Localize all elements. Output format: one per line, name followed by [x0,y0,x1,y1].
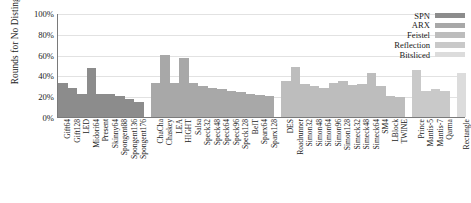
bar [338,81,348,117]
legend-swatch [435,52,465,58]
bar [208,88,218,117]
x-tick-label: Simeck48 [363,119,371,149]
bar [87,68,97,117]
x-tick-label: LED [83,119,91,134]
x-tick-label: Speck48 [214,119,222,145]
bar [236,92,246,117]
x-tick-label: HIGHT [185,119,193,143]
bar [58,83,68,117]
bar [246,94,256,117]
bar [179,58,189,117]
x-tick-label: Gift64 [64,119,72,139]
bar [96,94,106,117]
x-tick-label: Speck128 [242,119,250,149]
x-tick-label: Simon96 [335,119,343,146]
y-tick-label: 40% [38,72,54,80]
bar [68,88,78,117]
x-tick-label: Speck32 [204,119,212,145]
bar [115,96,125,117]
x-tick-label: Sparx64 [261,119,269,144]
legend-swatch [435,13,465,19]
bar [281,81,291,117]
bar [348,85,358,117]
x-tick-label: Qarma [446,119,454,140]
bar [255,95,265,117]
x-tick-label: Simon128 [344,119,352,150]
bar [125,99,135,117]
x-tick-label: Sparx128 [271,119,279,148]
y-tick-label: 60% [38,52,54,60]
x-tick-label: Spongent136 [131,119,139,159]
bar [265,96,275,117]
x-tick-label: BelT [252,119,260,134]
bar [376,86,386,117]
x-tick-label: Mantis-5 [427,119,435,146]
bar [151,83,161,117]
y-axis-tick-labels: 0%20%40%60%80%100% [18,14,54,118]
bar [386,96,396,117]
bar [160,55,170,117]
x-tick-label: Mantis-7 [437,119,445,146]
bar [319,88,329,117]
bar [134,102,144,117]
legend-label: Feistel [407,30,430,40]
x-tick-label: Salsa [195,119,203,135]
legend-label: SPN [414,11,430,21]
bar [440,91,450,117]
x-tick-label: Speck96 [233,119,241,145]
x-tick-label: Gift128 [74,119,82,143]
bar [291,67,301,117]
bar [189,83,199,117]
x-tick-label: DES [287,119,295,133]
x-tick-label: Roadrunner [297,119,305,155]
x-tick-label: Simon48 [316,119,324,146]
legend-item: Reflection [394,40,465,49]
bar [170,83,180,117]
x-tick-label: Skinny64 [112,119,120,148]
y-tick-label: 100% [34,10,54,18]
x-tick-label: Rectangle [463,119,471,149]
x-tick-label: SM4 [382,119,390,134]
x-tick-label: Chaskey [166,119,174,145]
x-tick-label: Present [102,119,110,141]
bar [412,70,422,117]
legend-label: ARX [412,20,430,30]
bar [300,84,310,117]
x-tick-label: Simon64 [325,119,333,146]
x-tick-label: Prince [418,119,426,138]
x-tick-label: Speck64 [223,119,231,145]
x-tick-label: LBlock [392,119,400,142]
legend-item: Feistel [394,31,465,40]
x-tick-label: Spongent88 [121,119,129,155]
x-tick-label: Spongent176 [140,119,148,159]
bar [329,83,339,117]
bar [77,94,87,117]
legend-item: Bitsliced [394,50,465,59]
legend-swatch [435,42,465,48]
x-tick-label: LEA [176,119,184,134]
legend-swatch [435,23,465,29]
x-tick-label: Simeck32 [354,119,362,149]
bar [367,73,377,117]
legend-item: SPN [394,11,465,20]
y-tick-label: 0% [43,114,54,122]
bar [421,91,431,117]
x-tick-label: TWINE [401,119,409,143]
x-tick-label: Midori64 [93,119,101,148]
bar [198,86,208,117]
legend-label: Reflection [394,40,430,50]
bar [217,89,227,117]
x-tick-label: Simon32 [306,119,314,146]
legend: SPNARXFeistelReflectionBitsliced [394,11,465,60]
x-tick-label: Simeck64 [373,119,381,149]
bar [357,84,367,117]
legend-swatch [435,32,465,38]
bar [310,86,320,117]
bar [106,94,116,117]
x-axis-tick-labels: Gift64Gift128LEDMidori64PresentSkinny64S… [57,119,465,203]
y-tick-label: 80% [38,31,54,39]
bar [457,73,467,117]
legend-label: Bitsliced [399,50,430,60]
bar [227,91,237,117]
